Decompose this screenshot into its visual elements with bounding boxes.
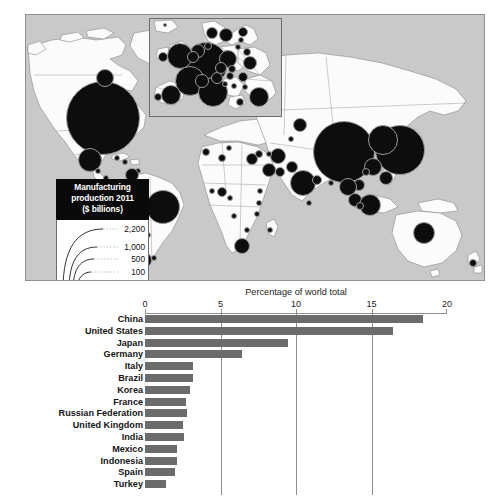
map-bubble (469, 259, 477, 267)
map-bubble (256, 200, 262, 206)
x-tick-mark (446, 309, 447, 313)
chart-bar-row: Italy (145, 362, 447, 370)
bar (145, 445, 177, 453)
legend-scale: 2,200 1,000 500 100 1 (56, 220, 149, 281)
chart-bar-row: United Kingdom (145, 421, 447, 429)
bar (145, 480, 166, 488)
category-label: Germany (104, 349, 143, 359)
legend-title-line1: Manufacturing (58, 182, 147, 193)
map-bubble (161, 85, 181, 105)
map-bubble (158, 52, 168, 62)
bar (145, 468, 175, 476)
category-label: Indonesia (101, 456, 143, 466)
category-label: China (118, 314, 143, 324)
map-bubble (146, 190, 180, 224)
map-bubble (356, 202, 364, 210)
map-bubble (413, 222, 435, 244)
bar (145, 374, 193, 382)
category-label: Turkey (114, 479, 143, 489)
category-label: United States (85, 326, 143, 336)
map-bubble (226, 72, 234, 80)
map-bubble (163, 23, 167, 27)
bar (145, 327, 393, 335)
map-bubble (217, 187, 227, 197)
europe-inset-map (149, 18, 282, 117)
x-tick-label: 20 (442, 299, 452, 309)
chart-bar-row: Turkey (145, 480, 447, 488)
map-bubble (243, 56, 257, 70)
map-bubble (362, 168, 370, 176)
legend-label-1: 1 (140, 278, 145, 281)
map-bubble (151, 255, 157, 261)
x-tick-label: 15 (366, 299, 376, 309)
map-bubble (204, 42, 212, 50)
chart-bar-row: Indonesia (145, 457, 447, 465)
map-bubble (218, 154, 226, 162)
category-label: Brazil (118, 373, 143, 383)
category-label: India (122, 432, 143, 442)
chart-bar-row: France (145, 398, 447, 406)
map-bubble (238, 27, 248, 37)
map-bubble (206, 27, 218, 39)
chart-bar-row: Korea (145, 386, 447, 394)
map-bubble (267, 227, 273, 233)
legend-label-1000: 1,000 (124, 242, 145, 252)
bar (145, 433, 184, 441)
chart-bar-row: Russian Federation (145, 409, 447, 417)
chart-plot-area: 05101520 ChinaUnited StatesJapanGermanyI… (145, 313, 447, 495)
legend-title-line2: production 2011 (58, 193, 147, 204)
map-bubble (255, 150, 263, 158)
x-tick-label: 5 (218, 299, 223, 309)
legend-label-500: 500 (131, 254, 145, 264)
map-bubble (238, 72, 248, 82)
legend-label-2200: 2,200 (124, 224, 145, 234)
bar (145, 457, 177, 465)
category-label: France (113, 397, 143, 407)
category-label: United Kingdom (73, 420, 143, 430)
chart-bar-row: India (145, 433, 447, 441)
bar (145, 315, 423, 323)
map-bubble (231, 83, 237, 89)
chart-bar-row: Japan (145, 339, 447, 347)
map-bubble (202, 148, 210, 156)
bar (145, 362, 193, 370)
map-bubble (328, 180, 334, 186)
map-bubble (379, 171, 393, 185)
map-legend: Manufacturing production 2011 ($ billion… (56, 179, 149, 281)
map-bubble (312, 175, 322, 185)
map-bubble (275, 167, 285, 177)
chart-bar-row: Germany (145, 350, 447, 358)
map-bubble (270, 148, 286, 164)
map-bubble (226, 145, 232, 151)
map-bubble (306, 200, 312, 206)
map-bubble (236, 98, 244, 106)
category-label: Mexico (112, 444, 143, 454)
map-bubble (266, 151, 272, 157)
map-bubble (238, 37, 244, 43)
map-bubble (95, 168, 101, 174)
map-bubble (242, 84, 248, 90)
x-tick-label: 0 (142, 299, 147, 309)
bar (145, 386, 190, 394)
map-bubble (249, 87, 269, 107)
category-label: Russian Federation (59, 408, 143, 418)
category-label: Korea (117, 385, 143, 395)
chart-bar-row: China (145, 315, 447, 323)
map-bubble (244, 227, 250, 233)
map-bubble (114, 155, 120, 161)
map-bubble (288, 136, 294, 142)
legend-title-line3: ($ billions) (58, 204, 147, 215)
map-bubble (254, 211, 260, 217)
x-tick-label: 10 (291, 299, 301, 309)
map-bubble (187, 51, 199, 63)
map-bubble (257, 188, 263, 194)
chart-title: Percentage of world total (145, 287, 447, 297)
legend-title: Manufacturing production 2011 ($ billion… (56, 179, 149, 220)
legend-label-100: 100 (131, 267, 145, 277)
category-label: Spain (118, 467, 143, 477)
chart-bar-row: Brazil (145, 374, 447, 382)
map-bubble (96, 69, 114, 87)
figure-manufacturing-production: Manufacturing production 2011 ($ billion… (0, 0, 504, 501)
bar (145, 350, 242, 358)
map-bubble (154, 93, 162, 101)
